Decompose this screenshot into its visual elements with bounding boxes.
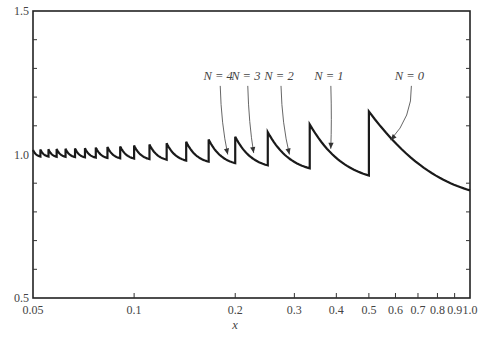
- x-tick-label: 0.1: [127, 303, 142, 317]
- x-tick-label: 0.2: [228, 303, 243, 317]
- arrowhead-icon: [328, 143, 333, 149]
- annotation-label: N = 1: [313, 69, 343, 83]
- x-tick-label: 0.7: [410, 303, 425, 317]
- x-tick-label: 0.6: [388, 303, 403, 317]
- annotation-label: N = 3: [230, 69, 260, 83]
- x-tick-label: 1.0: [463, 303, 478, 317]
- sawtooth-chart: 0.050.10.20.30.40.50.60.70.80.91.01.51.0…: [0, 0, 490, 337]
- annotation-arrow: [220, 86, 228, 155]
- plot-border: [33, 11, 470, 298]
- x-axis-label: x: [231, 318, 238, 332]
- arrowhead-icon: [224, 148, 229, 154]
- annotation-arrow: [391, 86, 412, 140]
- plot-frame: [33, 11, 470, 298]
- arrowhead-icon: [285, 148, 290, 154]
- annotation-label: N = 0: [394, 69, 425, 83]
- annotation-label: N = 2: [263, 69, 293, 83]
- x-tick-label: 0.3: [287, 303, 302, 317]
- arrowhead-icon: [250, 147, 255, 153]
- sawtooth-curve: [33, 111, 470, 190]
- axis-ticks: 0.050.10.20.30.40.50.60.70.80.91.01.51.0…: [14, 4, 478, 317]
- annotation-label: N = 4: [203, 69, 233, 83]
- data-series: [33, 111, 470, 190]
- annotation-arrow: [331, 86, 332, 149]
- annotation-arrow: [248, 86, 254, 153]
- x-tick-label: 0.05: [23, 303, 44, 317]
- x-tick-label: 0.8: [430, 303, 445, 317]
- x-tick-label: 0.9: [447, 303, 462, 317]
- x-tick-label: 0.4: [329, 303, 344, 317]
- annotation-arrow: [281, 86, 289, 155]
- y-tick-label: 1.5: [14, 4, 29, 18]
- x-tick-label: 0.5: [361, 303, 376, 317]
- y-tick-label: 0.5: [14, 291, 29, 305]
- y-tick-label: 1.0: [14, 148, 29, 162]
- annotation-n4: N = 4: [203, 69, 233, 155]
- annotation-n0: N = 0: [391, 69, 425, 140]
